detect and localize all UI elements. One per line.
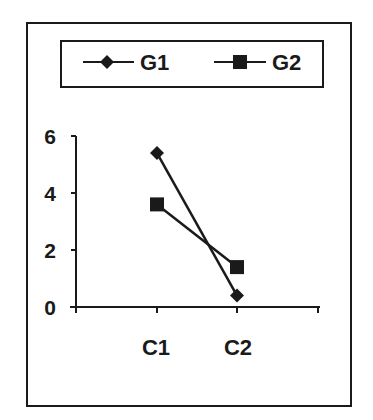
square-icon: [233, 55, 247, 69]
legend-label-g1: G1: [140, 50, 169, 75]
y-tick-2: 2: [44, 239, 56, 262]
square-marker: [230, 260, 244, 274]
x-tick-c1: C1: [142, 335, 170, 360]
y-tick-6: 6: [44, 125, 56, 148]
y-tick-0: 0: [44, 296, 56, 319]
x-tick-c2: C2: [224, 335, 252, 360]
legend: G1 G2: [61, 41, 323, 87]
legend-label-g2: G2: [272, 50, 301, 75]
y-tick-4: 4: [44, 182, 56, 205]
square-marker: [150, 197, 164, 211]
line-chart: G1 G2 6 4 2 0 C1 C2: [0, 0, 373, 420]
